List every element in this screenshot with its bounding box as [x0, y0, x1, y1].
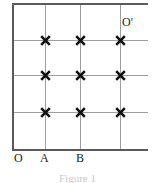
axis-label-b: B [76, 152, 84, 164]
axis-top-border [12, 3, 148, 5]
figure-container: O A B O' Figure 1 [0, 0, 155, 183]
gridline-vertical [45, 4, 46, 150]
axis-label-a: A [40, 152, 49, 164]
gridline-vertical [80, 4, 81, 150]
axis-label-origin: O [14, 152, 23, 164]
axis-left-border [12, 3, 14, 151]
gridline-vertical [120, 4, 121, 150]
gridline-horizontal [14, 112, 148, 113]
point-label-o-prime: O' [122, 16, 133, 28]
gridline-horizontal [14, 40, 148, 41]
figure-caption: Figure 1 [0, 172, 155, 183]
gridline-horizontal [14, 75, 148, 76]
